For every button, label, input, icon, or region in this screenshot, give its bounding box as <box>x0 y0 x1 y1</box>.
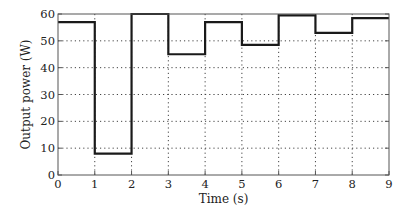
x-tick-label: 8 <box>349 177 356 191</box>
y-tick-label: 10 <box>40 141 55 155</box>
x-tick-label: 5 <box>238 177 245 191</box>
plot-frame <box>58 14 389 175</box>
grid-lines <box>58 14 389 175</box>
y-tick-label: 30 <box>40 88 55 102</box>
x-tick-label: 2 <box>128 177 135 191</box>
x-tick-label: 3 <box>165 177 172 191</box>
data-series <box>58 14 389 154</box>
axis-ticks <box>58 14 389 175</box>
y-tick-label: 50 <box>40 34 55 48</box>
x-tick-label: 0 <box>54 177 61 191</box>
y-tick-label: 60 <box>40 7 55 21</box>
chart: 0123456789 0102030405060 Time (s) Output… <box>0 0 409 214</box>
y-tick-label: 20 <box>40 114 55 128</box>
x-tick-label: 9 <box>385 177 392 191</box>
y-tick-label: 40 <box>40 61 55 75</box>
x-tick-labels: 0123456789 <box>54 177 392 191</box>
series-line <box>58 14 389 154</box>
y-tick-label: 0 <box>48 168 55 182</box>
x-tick-label: 7 <box>312 177 319 191</box>
x-tick-label: 1 <box>91 177 98 191</box>
x-tick-label: 4 <box>201 177 208 191</box>
x-tick-label: 6 <box>275 177 282 191</box>
y-axis-label: Output power (W) <box>19 40 33 150</box>
x-axis-label: Time (s) <box>199 192 249 206</box>
y-tick-labels: 0102030405060 <box>40 7 55 182</box>
